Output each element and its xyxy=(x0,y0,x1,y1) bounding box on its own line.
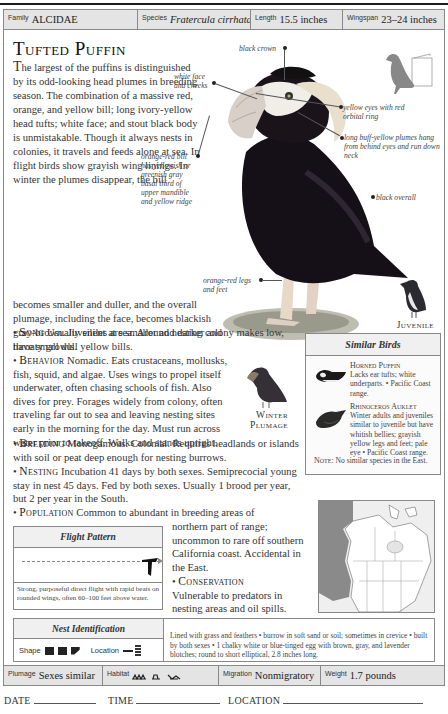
location-label: Location xyxy=(91,646,119,655)
species-title: Tufted Puffin xyxy=(13,38,126,60)
migration-cell: Migration Nonmigratory xyxy=(219,666,321,685)
similar-item-name: Rhinoceros Auklet xyxy=(350,402,440,411)
date-blank[interactable] xyxy=(34,695,96,704)
flying-bird-icon xyxy=(142,554,158,578)
callout-legs: orange-red legs and feet xyxy=(203,276,251,294)
wingspan-label: Wingspan xyxy=(347,14,378,21)
callout-black-crown: black crown xyxy=(239,44,276,53)
similar-item-text: Lacks ear tufts; white underparts. • Pac… xyxy=(350,370,440,398)
time-blank[interactable] xyxy=(136,695,220,704)
section-breeding-label: Breeding xyxy=(19,437,64,449)
ground-location-icon xyxy=(123,650,133,652)
similar-item-name: Horned Puffin xyxy=(350,361,440,370)
section-population-label: Population xyxy=(19,506,73,518)
family-value: ALCIDAE xyxy=(32,14,78,25)
flight-arrow-icon xyxy=(158,558,163,564)
species-value: Fratercula cirrhata xyxy=(170,14,251,25)
length-label: Length xyxy=(255,14,276,21)
section-conservation-label: Conservation xyxy=(178,575,244,587)
time-field[interactable]: TIME xyxy=(108,695,220,706)
crevice-shape-icon xyxy=(71,647,80,655)
header-info-strip: Family ALCIDAE Species Fratercula cirrha… xyxy=(3,9,445,30)
juvenile-label: Juvenile xyxy=(378,320,434,330)
winter-plumage-label: Winter Plumage xyxy=(236,410,288,430)
migration-label: Migration xyxy=(223,670,252,677)
section-behavior-label: Behavior xyxy=(19,354,64,366)
habitat-label: Habitat xyxy=(107,670,129,677)
winter-label-1: Winter xyxy=(236,410,288,420)
weight-cell: Weight 1.7 pounds xyxy=(321,666,444,685)
plumage-value: Sexes similar xyxy=(39,670,95,681)
size-silhouette-icon xyxy=(382,48,438,96)
flight-pattern-diagram xyxy=(14,548,162,583)
nest-identification-box: Nest Identification Shape Location Lined… xyxy=(13,618,435,662)
similar-birds-note: Note: No similar species in the East. xyxy=(314,456,438,465)
plumage-label: Plumage xyxy=(8,670,36,677)
callout-dot xyxy=(196,154,200,158)
ocean-icon xyxy=(168,675,180,679)
nest-identification-left: Nest Identification Shape Location xyxy=(14,619,164,661)
species-label: Species xyxy=(142,14,167,21)
date-field[interactable]: DATE xyxy=(4,695,96,706)
section-population-cont: northern part of range; uncommon to rare… xyxy=(172,520,312,574)
top-rule xyxy=(0,3,448,5)
coastal-icon xyxy=(152,675,160,679)
drop-cap: T xyxy=(13,59,22,74)
note-text: No similar species in the East. xyxy=(336,456,428,465)
section-behavior-text: Nomadic. Eats crustaceans, mollusks, fis… xyxy=(13,355,227,448)
family-cell: Family ALCIDAE xyxy=(4,10,138,29)
section-nesting-label: Nesting xyxy=(19,465,58,477)
footer-info-strip: Plumage Sexes similar Habitat Migration … xyxy=(3,665,445,686)
similar-item-rhinoceros-auklet: Rhinoceros Auklet Winter adults and juve… xyxy=(350,402,440,457)
rhinoceros-auklet-illustration xyxy=(314,404,348,432)
flight-path-line xyxy=(22,561,160,562)
similar-birds-title: Similar Birds xyxy=(306,334,440,356)
note-label: Note: xyxy=(314,456,334,465)
wingspan-cell: Wingspan 23–24 inches xyxy=(343,10,444,29)
section-breeding: • Breeding Monogamous. Colonial. Require… xyxy=(13,437,305,464)
grass-location-icon xyxy=(135,645,141,656)
callout-line xyxy=(262,280,282,281)
callout-dot xyxy=(340,136,344,140)
callout-black-overall: black overall xyxy=(376,193,416,202)
plumage-cell: Plumage Sexes similar xyxy=(4,666,103,685)
habitat-cell: Habitat xyxy=(103,666,219,685)
juvenile-puffin-illustration xyxy=(396,276,430,322)
weight-label: Weight xyxy=(325,670,347,677)
shape-label: Shape xyxy=(19,646,41,655)
date-label: DATE xyxy=(4,695,31,706)
family-label: Family xyxy=(8,14,29,21)
section-song: • Song Usually silent at sea. Around nes… xyxy=(13,326,303,353)
section-population: • Population Common to abundant in breed… xyxy=(13,506,313,520)
winter-label-2: Plumage xyxy=(236,420,288,430)
location-blank[interactable] xyxy=(283,695,423,704)
range-map-svg xyxy=(319,501,434,612)
range-map xyxy=(318,500,435,613)
time-label: TIME xyxy=(108,695,134,706)
callout-bill: orange-red bill has yellowish or greenis… xyxy=(141,152,199,206)
section-conservation-text: Vulnerable to predators in nesting areas… xyxy=(172,590,286,615)
callout-plumes: long buff-yellow plumes hang from behind… xyxy=(344,133,440,160)
location-label-log: LOCATION xyxy=(228,695,280,706)
nest-icons-row: Shape Location xyxy=(14,639,163,662)
flight-pattern-description: Strong, purposeful direct flight with ra… xyxy=(14,583,162,605)
section-conservation: • Conservation Vulnerable to predators i… xyxy=(172,575,312,616)
winter-plumage-illustration xyxy=(245,362,289,410)
horned-puffin-illustration xyxy=(314,366,348,386)
flight-pattern-box: Flight Pattern Strong, purposeful direct… xyxy=(13,526,163,610)
location-field[interactable]: LOCATION xyxy=(228,695,423,706)
section-song-label: Song xyxy=(19,326,44,338)
similar-birds-box: Similar Birds Horned Puffin Lacks ear tu… xyxy=(305,333,441,475)
similar-item-horned-puffin: Horned Puffin Lacks ear tufts; white und… xyxy=(350,361,440,398)
length-value: 15.5 inches xyxy=(279,14,327,25)
section-population-text-b: northern part of range; uncommon to rare… xyxy=(172,521,304,573)
section-behavior: • Behavior Nomadic. Eats crustaceans, mo… xyxy=(13,354,231,449)
callout-dot xyxy=(371,195,375,199)
grassland-icon xyxy=(132,675,146,679)
weight-value: 1.7 pounds xyxy=(350,670,396,681)
callout-yellow-eyes: yellow eyes with red orbital ring xyxy=(343,103,427,121)
section-song-text: Usually silent at sea. Around nesting co… xyxy=(13,327,284,352)
wingspan-value: 23–24 inches xyxy=(381,14,437,25)
section-nesting: • Nesting Incubation 41 days by both sex… xyxy=(13,465,305,506)
callout-line xyxy=(284,50,285,80)
